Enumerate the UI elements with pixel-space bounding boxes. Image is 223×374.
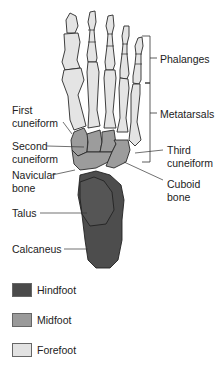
fourth-metatarsal xyxy=(117,78,129,132)
third-cuneiform-leader xyxy=(135,150,163,153)
legend-item-hindfoot: Hindfoot xyxy=(12,282,76,298)
midfoot-bones xyxy=(71,128,130,170)
hindfoot-swatch xyxy=(12,283,32,297)
legend-item-midfoot: Midfoot xyxy=(12,312,71,328)
second-cuneiform-label: Second cuneiform xyxy=(12,140,58,165)
calcaneus-label: Calcaneus xyxy=(12,243,62,256)
metatarsals-label: Metatarsals xyxy=(160,108,214,121)
fourth-toe-phalanges xyxy=(120,26,129,79)
cuboid-leader xyxy=(124,162,163,180)
second-cuneiform-bone xyxy=(87,130,102,152)
first-cuneiform-leader xyxy=(63,122,72,134)
second-metatarsal xyxy=(87,62,100,128)
phalanges-label: Phalanges xyxy=(160,53,210,66)
fifth-metatarsal xyxy=(129,84,141,146)
third-metatarsal xyxy=(104,70,116,128)
midfoot-swatch xyxy=(12,313,32,327)
forefoot-swatch xyxy=(12,343,32,357)
first-metatarsal xyxy=(62,68,86,130)
phalanges-metatarsals-bracket xyxy=(142,36,157,162)
talus-label: Talus xyxy=(12,207,37,220)
forefoot-bones xyxy=(62,11,143,146)
second-toe-phalanges xyxy=(87,11,97,62)
fifth-toe-phalanges xyxy=(133,37,143,84)
hindfoot-bones xyxy=(78,171,124,268)
legend-item-forefoot: Forefoot xyxy=(12,342,76,358)
big-toe-distal-phalanx xyxy=(66,13,78,33)
navicular-bone-label: Navicular bone xyxy=(12,169,56,194)
cuboid-bone-label: Cuboid bone xyxy=(167,178,200,203)
third-cuneiform-label: Third cuneiform xyxy=(167,144,213,169)
first-cuneiform-label: First cuneiform xyxy=(12,104,58,129)
big-toe-proximal-phalanx xyxy=(62,33,80,70)
third-toe-phalanges xyxy=(105,15,115,70)
